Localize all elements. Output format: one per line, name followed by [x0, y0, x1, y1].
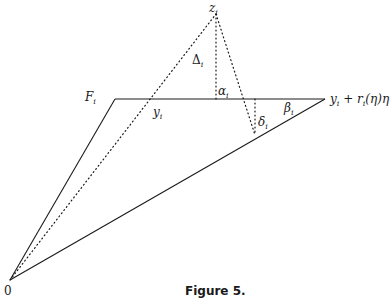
label-endpoint: yi + ri(η)η: [329, 92, 390, 108]
label-z: zi: [208, 1, 218, 17]
label-y: yi: [152, 105, 163, 121]
dotted-origin-to-z: [10, 14, 216, 280]
label-alpha: αi: [218, 84, 229, 100]
diagram-canvas: zi Δi Fi αi yi βi δi yi + ri(η)η 0 Figur…: [0, 0, 390, 300]
label-F: Fi: [84, 90, 96, 106]
label-origin: 0: [4, 284, 12, 298]
label-Delta: Δi: [192, 53, 204, 69]
dotted-z-to-lower-line: [216, 14, 255, 135]
edge-origin-to-F: [10, 99, 115, 280]
label-delta: δi: [258, 115, 268, 131]
edge-origin-to-endpoint: [10, 99, 325, 280]
label-beta: βi: [283, 101, 294, 117]
figure-caption: Figure 5.: [185, 284, 246, 298]
